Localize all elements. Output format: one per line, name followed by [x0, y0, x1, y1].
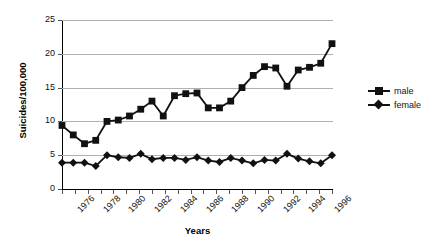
x-tick-mark — [255, 190, 256, 194]
x-axis-title: Years — [62, 225, 333, 236]
x-tick-label: 1982 — [153, 194, 174, 215]
data-point-male — [81, 140, 88, 147]
data-point-male — [149, 98, 156, 105]
data-point-male — [70, 132, 77, 139]
y-tick-label: 10 — [33, 116, 55, 125]
data-point-male — [126, 113, 133, 120]
x-tick-label: 1994 — [307, 194, 328, 215]
y-tick-mark — [58, 20, 62, 21]
data-point-female — [204, 157, 212, 165]
y-tick-mark — [58, 121, 62, 122]
x-tick-mark — [152, 190, 153, 194]
gridline — [62, 54, 333, 55]
x-tick-mark — [178, 190, 179, 194]
data-point-male — [216, 104, 223, 111]
data-point-male — [227, 98, 234, 105]
data-point-male — [194, 90, 201, 97]
gridline — [62, 88, 333, 89]
data-point-male — [306, 64, 313, 71]
series-line-male — [62, 44, 332, 144]
x-tick-mark — [332, 190, 333, 194]
data-point-male — [329, 40, 336, 47]
x-tick-mark — [75, 190, 76, 194]
series-plot — [0, 0, 442, 247]
x-tick-mark — [101, 190, 102, 194]
y-tick-label: 25 — [33, 15, 55, 24]
x-tick-label: 1984 — [179, 194, 200, 215]
data-point-female — [317, 159, 325, 167]
legend-marker-square-icon — [368, 86, 390, 96]
x-tick-label: 1986 — [204, 194, 225, 215]
data-point-male — [261, 63, 268, 70]
data-point-male — [182, 90, 189, 97]
x-tick-label: 1988 — [230, 194, 251, 215]
x-tick-label: 1996 — [333, 194, 354, 215]
x-tick-mark — [126, 190, 127, 194]
data-point-female — [148, 155, 156, 163]
y-tick-label: 20 — [33, 49, 55, 58]
legend-item-male[interactable]: male — [368, 84, 421, 98]
gridline — [62, 155, 333, 156]
x-tick-mark — [62, 190, 63, 194]
data-point-female — [182, 156, 190, 164]
y-tick-label: 0 — [33, 184, 55, 193]
chart-container: 0510152025 19761978198019821984198619881… — [0, 0, 442, 247]
data-point-male — [171, 92, 178, 99]
data-point-male — [92, 137, 99, 144]
legend-item-female[interactable]: female — [368, 98, 421, 112]
data-point-female — [238, 157, 246, 165]
data-point-female — [272, 157, 280, 165]
x-tick-label: 1992 — [282, 194, 303, 215]
y-tick-mark — [58, 155, 62, 156]
data-point-male — [205, 104, 212, 111]
data-point-female — [283, 150, 291, 158]
y-tick-label: 15 — [33, 83, 55, 92]
data-point-male — [250, 72, 257, 79]
data-point-female — [306, 157, 314, 165]
data-point-female — [92, 162, 100, 170]
data-point-male — [160, 113, 167, 120]
x-tick-mark — [281, 190, 282, 194]
gridline — [62, 20, 333, 21]
x-tick-label: 1976 — [76, 194, 97, 215]
data-point-female — [261, 156, 269, 164]
legend: male female — [368, 84, 421, 112]
y-tick-label: 5 — [33, 150, 55, 159]
x-tick-mark — [229, 190, 230, 194]
x-tick-label: 1980 — [127, 194, 148, 215]
x-tick-label: 1978 — [102, 194, 123, 215]
x-tick-mark — [203, 190, 204, 194]
data-point-female — [249, 159, 257, 167]
gridline — [62, 121, 333, 122]
data-point-male — [137, 106, 144, 113]
x-tick-mark — [306, 190, 307, 194]
data-point-female — [69, 159, 77, 167]
y-tick-mark — [58, 88, 62, 89]
data-point-female — [81, 159, 89, 167]
legend-marker-diamond-icon — [368, 100, 390, 110]
y-tick-mark — [58, 54, 62, 55]
data-point-male — [272, 65, 279, 72]
legend-label-female: female — [394, 100, 421, 110]
x-tick-label: 1990 — [256, 194, 277, 215]
y-axis-title: Suicides/100,000 — [17, 41, 28, 161]
data-point-female — [216, 158, 224, 166]
data-point-male — [295, 67, 302, 74]
legend-label-male: male — [394, 86, 414, 96]
data-point-female — [137, 150, 145, 158]
y-axis-line — [62, 20, 63, 190]
data-point-male — [317, 60, 324, 67]
